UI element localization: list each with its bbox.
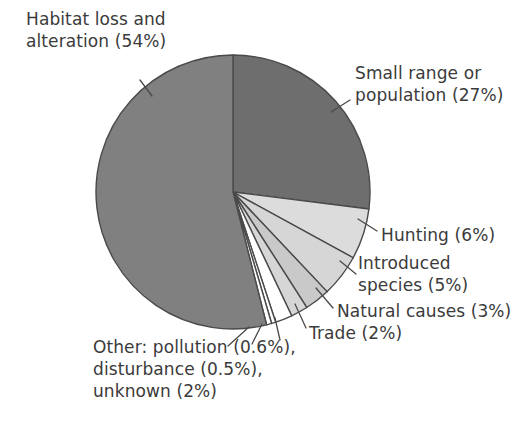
- slice-label-trade: Trade (2%): [309, 322, 402, 344]
- slice-label-hunting: Hunting (6%): [381, 224, 495, 246]
- slice-label-introduced-species: Introduced species (5%): [358, 252, 468, 296]
- slice-label-habitat-loss: Habitat loss and alteration (54%): [26, 8, 166, 52]
- pie-slices-group: [96, 55, 370, 329]
- pie-chart-figure: Habitat loss and alteration (54%) Small …: [0, 0, 524, 430]
- slice-label-natural-causes: Natural causes (3%): [337, 300, 511, 322]
- pie-slice-small-range-or-population: [233, 55, 370, 209]
- slice-label-small-range: Small range or population (27%): [355, 62, 504, 106]
- slice-label-other: Other: pollution (0.6%), disturbance (0.…: [93, 336, 296, 402]
